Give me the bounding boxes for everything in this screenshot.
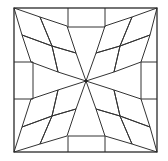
tab-left bbox=[14, 62, 33, 99]
kite-bottom-left bbox=[14, 81, 86, 152]
tab-top bbox=[68, 8, 105, 27]
kite-cell-light bbox=[120, 8, 157, 46]
kite-cell-dark bbox=[114, 90, 150, 127]
kite-cell-dark bbox=[22, 90, 58, 127]
kite-top-left bbox=[14, 8, 86, 81]
kite-cell-dark bbox=[114, 35, 150, 72]
kite-cell-light bbox=[86, 81, 120, 116]
kite-cell-light bbox=[52, 81, 86, 116]
kite-cell-light bbox=[86, 46, 120, 81]
kite-top-right bbox=[86, 8, 157, 81]
kite-cell-light bbox=[14, 8, 52, 46]
tab-right bbox=[141, 62, 157, 99]
quilt-block-diagram bbox=[0, 0, 168, 161]
kite-cell-light bbox=[14, 116, 52, 152]
kite-cell-light bbox=[120, 116, 157, 152]
kite-cell-light bbox=[52, 46, 86, 81]
kite-bottom-right bbox=[86, 81, 157, 152]
center-point bbox=[85, 80, 88, 83]
tab-bottom bbox=[68, 136, 105, 152]
kite-cell-dark bbox=[22, 35, 58, 72]
